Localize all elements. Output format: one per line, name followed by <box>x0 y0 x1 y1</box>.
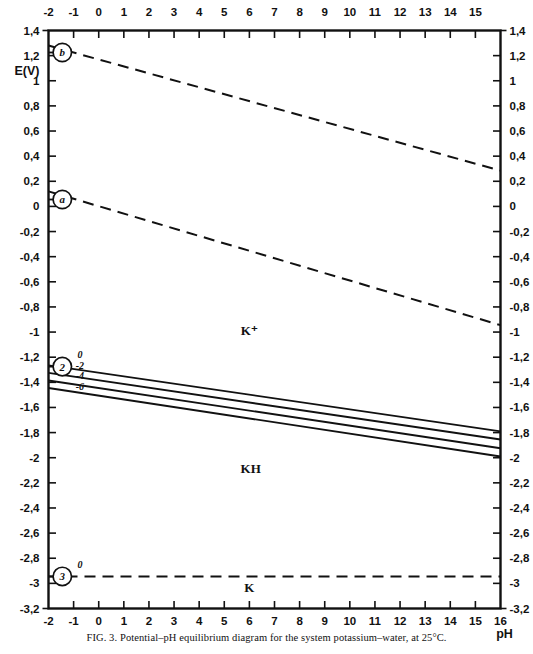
y-tick-label-right: -2 <box>510 452 520 464</box>
y-tick-label-left: -0,6 <box>20 276 40 288</box>
y-tick-label-left: 0 <box>33 200 39 212</box>
x-tick-label-top: 10 <box>343 6 356 18</box>
x-tick-label-top: 6 <box>246 6 252 18</box>
region-label: K <box>244 580 255 595</box>
y-tick-label-left: -2,2 <box>20 477 40 489</box>
x-tick-label-bottom: 9 <box>322 615 328 627</box>
x-tick-label-top: -2 <box>43 6 53 18</box>
x-tick-label-bottom: 5 <box>221 615 228 627</box>
series-line-2-minus4 <box>49 380 501 448</box>
y-tick-label-right: -2,8 <box>510 552 530 564</box>
y-tick-label-left: -2,4 <box>20 502 40 514</box>
y-tick-label-right: 1,2 <box>510 50 526 62</box>
y-tick-label-right: -2,2 <box>510 477 530 489</box>
x-tick-label-bottom: 1 <box>121 615 128 627</box>
caption-prefix: FIG. 3. <box>86 632 117 643</box>
y-tick-label-left: -3,2 <box>20 603 40 615</box>
y-tick-label-left: 0,8 <box>24 100 41 112</box>
y-tick-label-right: -0,8 <box>510 301 530 313</box>
y-tick-label-right: 0 <box>510 200 516 212</box>
y-tick-label-left: -2,6 <box>20 527 40 539</box>
line-value-label: -6 <box>76 381 84 392</box>
x-tick-label-bottom: 15 <box>469 615 482 627</box>
y-tick-label-left: -0,2 <box>20 226 40 238</box>
y-tick-label-right: 0,4 <box>510 150 527 162</box>
y-tick-label-right: 1 <box>510 75 517 87</box>
y-tick-label-left: -1,6 <box>20 401 40 413</box>
caption-text: Potential–pH equilibrium diagram for the… <box>120 632 447 643</box>
x-tick-label-top: 3 <box>171 6 177 18</box>
y-tick-label-right: -0,4 <box>510 251 530 263</box>
y-tick-label-left: -1,4 <box>20 376 40 388</box>
y-tick-label-right: -2,6 <box>510 527 530 539</box>
reaction-marker-label-b: b <box>60 46 66 58</box>
plot-frame <box>49 31 501 609</box>
series-line-a <box>49 191 501 325</box>
x-tick-label-bottom: 12 <box>394 615 407 627</box>
y-tick-label-right: 0,8 <box>510 100 527 112</box>
y-tick-label-left: -3 <box>29 577 39 589</box>
series-line-b <box>49 46 501 171</box>
x-tick-label-top: 0 <box>96 6 102 18</box>
y-tick-label-left: 1,2 <box>24 50 40 62</box>
y-tick-label-right: 0,2 <box>510 175 526 187</box>
pourbaix-figure: -2-2-1-100112233445566778899101011111212… <box>0 0 533 654</box>
y-tick-label-right: -0,6 <box>510 276 530 288</box>
y-tick-label-right: 0,6 <box>510 125 526 137</box>
line-value-label: 0 <box>77 559 82 570</box>
x-tick-label-top: -1 <box>68 6 79 18</box>
x-tick-label-top: 2 <box>146 6 152 18</box>
reaction-marker-label-a: a <box>60 193 66 205</box>
y-tick-label-right: -1,2 <box>510 351 530 363</box>
potential-ph-diagram: -2-2-1-100112233445566778899101011111212… <box>0 0 533 654</box>
x-tick-label-top: 13 <box>419 6 432 18</box>
x-tick-label-top: 7 <box>271 6 277 18</box>
x-tick-label-bottom: -2 <box>43 615 53 627</box>
x-tick-label-top: 4 <box>196 6 203 18</box>
x-tick-label-top: 12 <box>394 6 407 18</box>
line-value-label: -2 <box>76 360 84 371</box>
x-tick-label-top: 15 <box>469 6 482 18</box>
y-tick-label-left: -0,8 <box>20 301 40 313</box>
y-tick-label-right: 1,4 <box>510 25 527 37</box>
line-value-label: -4 <box>76 370 84 381</box>
line-value-label: 0 <box>77 349 82 360</box>
y-tick-label-left: -1 <box>29 326 40 338</box>
reaction-marker-label-2: 2 <box>59 361 66 373</box>
reaction-marker-label-3: 3 <box>59 570 66 582</box>
y-tick-label-right: -2,4 <box>510 502 530 514</box>
x-tick-label-top: 14 <box>444 6 457 18</box>
x-tick-label-bottom: 14 <box>444 615 457 627</box>
x-tick-label-bottom: 6 <box>246 615 252 627</box>
region-label: K⁺ <box>241 323 258 338</box>
x-tick-label-bottom: 10 <box>343 615 356 627</box>
y-tick-label-left: -2,8 <box>20 552 40 564</box>
y-tick-label-right: -1 <box>510 326 521 338</box>
x-tick-label-bottom: 3 <box>171 615 177 627</box>
x-tick-label-bottom: 16 <box>494 615 507 627</box>
figure-caption: FIG. 3. Potential–pH equilibrium diagram… <box>0 632 533 643</box>
y-tick-label-right: -3,2 <box>510 603 530 615</box>
y-tick-label-left: -2 <box>29 452 39 464</box>
x-tick-label-bottom: 4 <box>196 615 203 627</box>
y-tick-label-left: 0,2 <box>24 175 40 187</box>
series-line-2-minus2 <box>49 373 501 440</box>
x-tick-label-bottom: 0 <box>96 615 102 627</box>
y-tick-label-right: -1,8 <box>510 427 530 439</box>
y-tick-label-left: -1,8 <box>20 427 40 439</box>
x-tick-label-bottom: 11 <box>369 615 382 627</box>
x-tick-label-bottom: 7 <box>271 615 277 627</box>
x-tick-label-bottom: -1 <box>68 615 79 627</box>
x-tick-label-bottom: 8 <box>296 615 303 627</box>
y-axis-title: E(V) <box>15 64 40 78</box>
x-tick-label-top: 5 <box>221 6 228 18</box>
x-tick-label-bottom: 2 <box>146 615 152 627</box>
x-tick-label-top: 9 <box>322 6 328 18</box>
y-tick-label-left: -1,2 <box>20 351 40 363</box>
y-tick-label-right: -1,4 <box>510 376 530 388</box>
region-label: KH <box>241 461 261 476</box>
x-tick-label-top: 1 <box>121 6 128 18</box>
y-tick-label-left: -0,4 <box>20 251 40 263</box>
x-tick-label-top: 8 <box>296 6 303 18</box>
y-tick-label-left: 1,4 <box>24 25 41 37</box>
